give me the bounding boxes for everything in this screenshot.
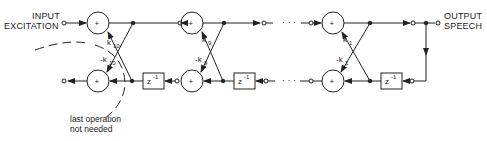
svg-text:+: + [189, 19, 194, 28]
input-label-2: EXCITATION [4, 22, 59, 31]
svg-text:1: 1 [349, 40, 353, 46]
svg-text:z: z [385, 77, 389, 86]
svg-text:9: 9 [208, 40, 212, 46]
output-terminal [436, 21, 440, 25]
svg-text:+: + [330, 77, 335, 86]
annotation-line1: last operation [70, 114, 121, 124]
svg-text:k: k [343, 35, 348, 44]
svg-text:-1: -1 [391, 74, 397, 80]
svg-text:+: + [95, 19, 100, 28]
annotation-line2: not needed [70, 124, 113, 134]
svg-text:· · ·: · · · [282, 75, 296, 85]
svg-text:z: z [147, 77, 151, 86]
svg-text:9: 9 [204, 60, 208, 66]
svg-text:-k: -k [336, 55, 344, 64]
svg-text:· · ·: · · · [282, 17, 296, 27]
output-label-2: SPEECH [444, 22, 482, 31]
svg-text:-k: -k [100, 55, 108, 64]
svg-text:-1: -1 [153, 74, 159, 80]
input-terminal [62, 21, 66, 25]
svg-text:+: + [330, 19, 335, 28]
svg-text:+: + [95, 77, 100, 86]
svg-text:z: z [238, 77, 242, 86]
output-label: OUTPUT [444, 12, 482, 21]
svg-text:1: 1 [345, 60, 349, 66]
svg-text:10: 10 [109, 60, 116, 66]
svg-text:-1: -1 [244, 74, 250, 80]
svg-text:-k: -k [195, 55, 203, 64]
input-label: INPUT [32, 12, 60, 21]
svg-text:+: + [189, 77, 194, 86]
svg-text:10: 10 [113, 43, 120, 49]
